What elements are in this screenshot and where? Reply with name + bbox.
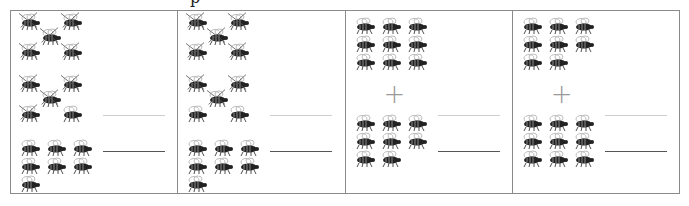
- panel-2: [178, 11, 345, 193]
- bee-icon-crossed: [228, 43, 250, 61]
- bee-icon: [186, 175, 208, 193]
- bee-icon: [380, 114, 402, 132]
- bee-icon: [45, 139, 67, 157]
- bee-icon: [406, 114, 428, 132]
- panel-1: [11, 11, 178, 193]
- bee-icon: [547, 17, 569, 35]
- bee-icon: [61, 105, 83, 123]
- bee-icon: [521, 35, 543, 53]
- answer-line[interactable]: [605, 151, 667, 152]
- answer-line[interactable]: [103, 151, 165, 152]
- hint-line: [605, 115, 667, 116]
- bee-icon: [573, 150, 595, 168]
- bee-icon: [238, 157, 260, 175]
- panel-4: +: [513, 11, 679, 193]
- bee-icon: [547, 132, 569, 150]
- bee-icon: [354, 132, 376, 150]
- bee-icon-crossed: [61, 43, 83, 61]
- bee-icon-crossed: [19, 105, 41, 123]
- hint-line: [103, 115, 165, 116]
- bee-icon: [547, 150, 569, 168]
- hint-line: [438, 115, 500, 116]
- bee-icon: [380, 17, 402, 35]
- panel-3: +: [346, 11, 513, 193]
- bee-icon-crossed: [186, 43, 208, 61]
- bee-icon-crossed: [40, 90, 62, 108]
- bee-icon: [212, 139, 234, 157]
- bee-icon-crossed: [228, 13, 250, 31]
- bee-icon: [406, 53, 428, 71]
- bee-icon: [406, 17, 428, 35]
- bee-icon-crossed: [61, 13, 83, 31]
- bee-icon: [521, 132, 543, 150]
- bee-icon-crossed: [207, 90, 229, 108]
- bee-icon: [521, 114, 543, 132]
- bee-icon: [521, 53, 543, 71]
- bee-icon: [547, 35, 569, 53]
- bee-icon: [186, 157, 208, 175]
- bee-icon: [186, 139, 208, 157]
- bee-icon: [406, 35, 428, 53]
- bee-icon: [19, 175, 41, 193]
- worksheet: + +: [10, 10, 680, 194]
- bee-icon-crossed: [61, 75, 83, 93]
- bee-icon: [573, 17, 595, 35]
- bee-icon: [380, 150, 402, 168]
- bee-icon: [521, 17, 543, 35]
- bee-icon: [380, 132, 402, 150]
- bee-icon: [406, 132, 428, 150]
- bee-icon: [573, 35, 595, 53]
- bee-icon-crossed: [228, 75, 250, 93]
- bee-icon: [547, 53, 569, 71]
- bee-icon: [380, 35, 402, 53]
- bee-icon: [354, 53, 376, 71]
- bee-icon: [354, 17, 376, 35]
- bee-icon: [19, 139, 41, 157]
- bee-icon: [71, 157, 93, 175]
- hint-line: [270, 115, 332, 116]
- bee-icon: [354, 150, 376, 168]
- bee-icon: [547, 114, 569, 132]
- bee-icon: [354, 35, 376, 53]
- bee-icon: [45, 157, 67, 175]
- bee-icon: [71, 139, 93, 157]
- title-fragment: p: [190, 0, 200, 7]
- plus-sign: +: [384, 81, 406, 107]
- bee-icon: [238, 139, 260, 157]
- bee-icon-crossed: [19, 43, 41, 61]
- answer-line[interactable]: [270, 151, 332, 152]
- bee-icon: [573, 132, 595, 150]
- bee-icon: [354, 114, 376, 132]
- bee-icon: [19, 157, 41, 175]
- bee-icon: [228, 105, 250, 123]
- bee-icon: [186, 105, 208, 123]
- bee-icon: [380, 53, 402, 71]
- bee-icon: [212, 157, 234, 175]
- bee-icon: [521, 150, 543, 168]
- bee-icon: [573, 114, 595, 132]
- plus-sign: +: [551, 81, 573, 107]
- answer-line[interactable]: [438, 151, 500, 152]
